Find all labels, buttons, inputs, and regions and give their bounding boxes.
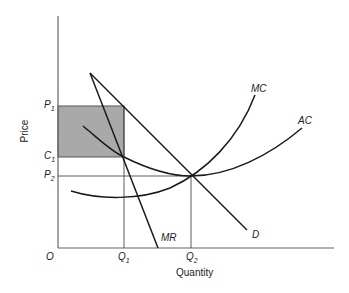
monopoly-diagram	[0, 0, 349, 293]
demand-label: D	[252, 230, 259, 240]
p1-tick-label: P1	[44, 100, 55, 110]
origin-label: O	[46, 252, 54, 262]
q1-tick-label: Q1	[118, 252, 130, 262]
profit-area	[58, 106, 124, 157]
q2-tick-label: Q2	[186, 252, 198, 262]
x-axis-title: Quantity	[176, 268, 213, 278]
c1-tick-label: C1	[44, 151, 55, 161]
mc-label: MC	[251, 84, 267, 94]
ac-label: AC	[298, 116, 312, 126]
mr-label: MR	[161, 233, 177, 243]
p2-tick-label: P2	[44, 170, 55, 180]
y-axis-title: Price	[20, 120, 30, 143]
